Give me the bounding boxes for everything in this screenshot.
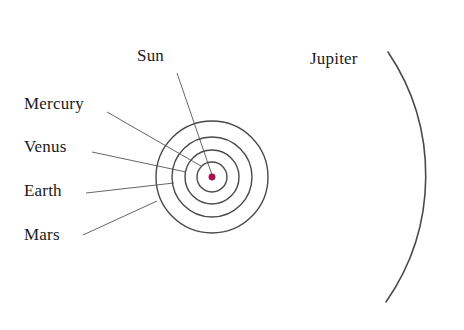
label-earth: Earth (24, 182, 62, 199)
label-venus: Venus (24, 138, 67, 155)
leader-line-sun (177, 73, 212, 175)
label-jupiter: Jupiter (310, 50, 358, 67)
label-sun: Sun (137, 47, 164, 64)
orbit-diagram-canvas (0, 0, 464, 330)
leader-line-venus (92, 152, 186, 172)
label-mars: Mars (24, 226, 60, 243)
orbit-arc-jupiter (386, 52, 426, 302)
orbit-diagram-figure: Sun Jupiter Mercury Venus Earth Mars (0, 0, 464, 330)
leader-line-mars (83, 201, 157, 235)
leader-line-earth (86, 183, 174, 193)
sun-marker-icon (209, 174, 215, 180)
label-mercury: Mercury (24, 95, 84, 112)
